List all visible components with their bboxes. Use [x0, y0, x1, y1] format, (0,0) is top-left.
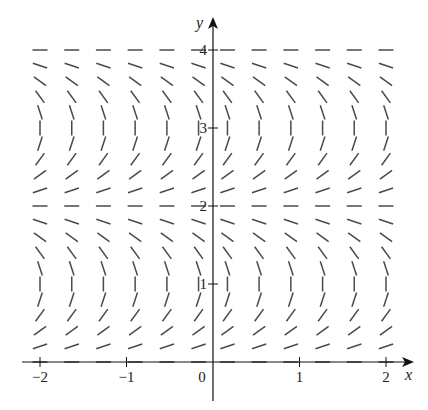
slope-segment [286, 91, 295, 103]
slope-segment [252, 188, 266, 193]
slope-segment [133, 105, 138, 119]
slope-segment [66, 326, 78, 335]
slope-segment [160, 344, 174, 349]
slope-segment [192, 233, 204, 242]
slope-segment [129, 326, 141, 335]
slope-segment [284, 63, 298, 68]
slope-segment [221, 233, 233, 242]
slope-segment [160, 219, 174, 224]
y-axis-label: y [194, 14, 204, 32]
slope-segment [128, 344, 142, 349]
slope-segment [129, 77, 141, 86]
slope-segment [65, 63, 79, 68]
slope-segment [161, 77, 173, 86]
slope-segment [221, 326, 233, 335]
slope-segment [160, 63, 174, 68]
slope-segment [347, 188, 361, 193]
slope-segment [285, 233, 297, 242]
slope-segment [162, 247, 171, 259]
slope-segment [96, 63, 110, 68]
slope-segment [36, 91, 45, 103]
slope-segment [196, 105, 201, 119]
slope-segment [289, 292, 294, 306]
slope-segment [33, 63, 47, 68]
slope-segment [133, 261, 138, 275]
slope-segment [191, 344, 205, 349]
slope-segment [384, 136, 389, 150]
slope-segment [161, 170, 173, 179]
slope-segment [384, 261, 389, 275]
slope-segment [347, 219, 361, 224]
slope-segment [194, 309, 203, 321]
slope-segment [379, 63, 393, 68]
slope-segment [317, 77, 329, 86]
slope-segment [318, 247, 327, 259]
slope-segment [379, 188, 393, 193]
slope-segment [348, 170, 360, 179]
slope-segment [131, 309, 140, 321]
x-tick-label: 1 [296, 369, 304, 385]
slope-segment [253, 170, 265, 179]
axes: −2−1012 1234 x y [22, 14, 414, 401]
slope-segment [318, 153, 327, 165]
slope-segment [223, 153, 232, 165]
slope-segment [221, 77, 233, 86]
slope-segment [320, 292, 325, 306]
slope-segment [165, 292, 170, 306]
x-tick-label: −1 [119, 369, 135, 385]
slope-segment [194, 91, 203, 103]
slope-segment [350, 247, 359, 259]
slope-segment [382, 153, 391, 165]
slope-segment [69, 136, 74, 150]
slope-segment [382, 247, 391, 259]
y-tick-label: 1 [200, 276, 208, 292]
slope-segment [220, 344, 234, 349]
slope-segment [284, 188, 298, 193]
slope-segment [220, 219, 234, 224]
slope-segment [253, 233, 265, 242]
slope-segment [380, 77, 392, 86]
slope-segment [33, 219, 47, 224]
slope-segment [97, 233, 109, 242]
slope-segment [225, 261, 230, 275]
slope-segment [196, 292, 201, 306]
slope-segment [379, 219, 393, 224]
slope-segment [257, 136, 262, 150]
slope-segment [352, 136, 357, 150]
slope-segment [318, 309, 327, 321]
slope-segment [33, 188, 47, 193]
slope-segment [96, 188, 110, 193]
slope-segment [286, 153, 295, 165]
slope-segment [286, 309, 295, 321]
slope-segment [131, 153, 140, 165]
slope-segment [315, 219, 329, 224]
slope-segment [220, 63, 234, 68]
slope-segment [160, 188, 174, 193]
slope-segment [128, 63, 142, 68]
slope-segment [220, 188, 234, 193]
slope-segment [255, 91, 264, 103]
slope-segment [253, 77, 265, 86]
slope-segment [96, 219, 110, 224]
slope-segment [223, 91, 232, 103]
slope-segment [36, 247, 45, 259]
slope-segment [191, 219, 205, 224]
slope-segment [67, 91, 76, 103]
slope-segment [38, 136, 43, 150]
slope-segment [162, 91, 171, 103]
slope-segment [320, 136, 325, 150]
slope-segment [165, 105, 170, 119]
slope-segment [192, 170, 204, 179]
slope-segment [380, 326, 392, 335]
slope-segment [162, 309, 171, 321]
slope-segment [161, 233, 173, 242]
slope-segment [320, 261, 325, 275]
slope-segment [221, 170, 233, 179]
slope-segment [99, 91, 108, 103]
slope-segment [191, 63, 205, 68]
slope-segment [129, 170, 141, 179]
slope-segment [128, 188, 142, 193]
slope-segment [384, 292, 389, 306]
slope-segment [252, 344, 266, 349]
slope-segment [65, 219, 79, 224]
